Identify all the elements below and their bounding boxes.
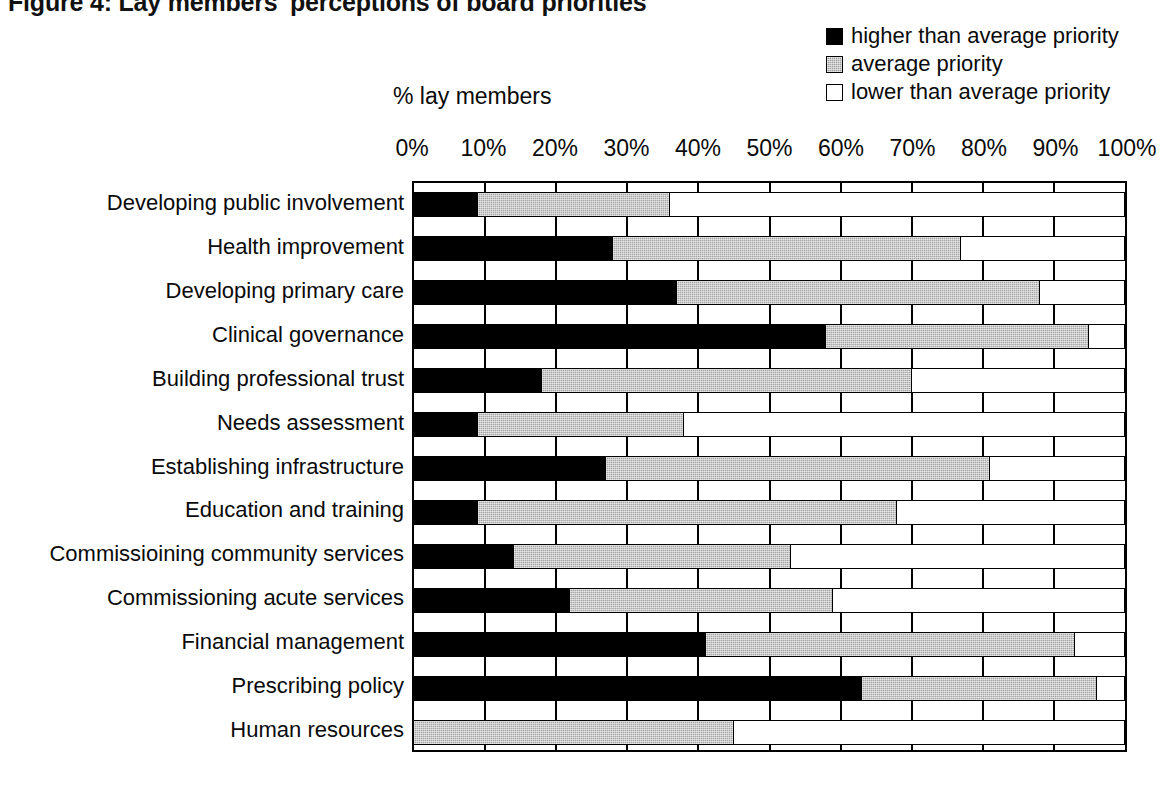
bar-segment-lower [912,368,1125,393]
bar-segment-higher [414,236,613,261]
bar-segment-higher [414,324,826,349]
bar-segment-higher [414,632,706,657]
bar-row [414,368,1125,393]
category-label: Prescribing policy [0,673,404,699]
bar-row [414,676,1125,701]
bar-row [414,588,1125,613]
category-label: Building professional trust [0,366,404,392]
bar-segment-average [414,720,734,745]
legend-label-average: average priority [851,51,1003,77]
x-tick-label: 20% [532,135,578,162]
bar-segment-lower [897,500,1125,525]
bar-segment-average [478,412,684,437]
bar-segment-higher [414,500,478,525]
x-tick-label: 80% [961,135,1007,162]
bar-segment-lower [1089,324,1125,349]
bar-segment-higher [414,544,514,569]
bar-segment-higher [414,280,677,305]
bar-segment-lower [833,588,1125,613]
bar-rows [414,183,1125,750]
bar-row [414,632,1125,657]
bar-segment-average [606,456,990,481]
bar-segment-lower [1075,632,1125,657]
category-label: Establishing infrastructure [0,454,404,480]
black-square-icon [826,28,843,45]
bar-segment-higher [414,368,542,393]
category-label: Commissioning acute services [0,585,404,611]
chart-legend: higher than average priority average pri… [826,22,1166,106]
bar-segment-average [862,676,1097,701]
bar-segment-lower [734,720,1125,745]
bar-row [414,544,1125,569]
legend-label-higher: higher than average priority [851,23,1119,49]
bar-row [414,412,1125,437]
bar-segment-higher [414,412,478,437]
category-label: Financial management [0,629,404,655]
bar-row [414,324,1125,349]
x-tick-label: 90% [1032,135,1078,162]
category-label: Developing primary care [0,278,404,304]
bar-row [414,192,1125,217]
legend-item-higher: higher than average priority [826,22,1166,50]
category-label: Health improvement [0,234,404,260]
bar-segment-average [478,500,897,525]
bar-row [414,236,1125,261]
bar-row [414,500,1125,525]
bar-row [414,456,1125,481]
bar-segment-lower [1097,676,1125,701]
category-label: Needs assessment [0,410,404,436]
bar-segment-lower [990,456,1125,481]
x-tick-label: 60% [818,135,864,162]
x-axis-tick-labels: 0%10%20%30%40%50%60%70%80%90%100% [412,135,1127,165]
legend-item-lower: lower than average priority [826,78,1166,106]
gray-square-icon [826,56,843,73]
white-square-icon [826,84,843,101]
bar-segment-higher [414,456,606,481]
x-tick-label: 30% [603,135,649,162]
x-tick-label: 40% [675,135,721,162]
legend-item-average: average priority [826,50,1166,78]
category-label: Developing public involvement [0,190,404,216]
plot-area [412,181,1127,752]
bar-segment-average [514,544,791,569]
bar-segment-higher [414,588,570,613]
category-label: Commissioining community services [0,541,404,567]
x-axis-title: % lay members [393,83,551,110]
bar-segment-average [706,632,1076,657]
bar-segment-lower [961,236,1125,261]
bar-segment-average [613,236,961,261]
bar-segment-lower [1040,280,1125,305]
bar-segment-lower [670,192,1125,217]
bar-row [414,280,1125,305]
x-tick-label: 10% [460,135,506,162]
bar-segment-average [570,588,833,613]
page-title: Figure 4: Lay members' perceptions of bo… [8,0,646,17]
bar-segment-average [677,280,1040,305]
bar-segment-lower [791,544,1125,569]
bar-segment-lower [684,412,1125,437]
x-tick-label: 100% [1098,135,1157,162]
bar-segment-average [826,324,1089,349]
category-label: Education and training [0,497,404,523]
legend-label-lower: lower than average priority [851,79,1110,105]
bar-segment-higher [414,192,478,217]
category-label: Human resources [0,717,404,743]
x-tick-label: 0% [395,135,428,162]
category-label: Clinical governance [0,322,404,348]
x-tick-label: 50% [746,135,792,162]
x-tick-label: 70% [889,135,935,162]
bar-segment-higher [414,676,862,701]
bar-segment-average [478,192,670,217]
bar-segment-average [542,368,912,393]
bar-row [414,720,1125,745]
